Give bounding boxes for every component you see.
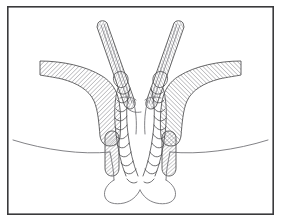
illustration-figure: Surgical cross-section illustration Line… xyxy=(0,0,281,222)
left-lower-stub xyxy=(105,131,119,176)
illustration-border xyxy=(8,7,273,214)
right-lower-stub xyxy=(162,131,176,176)
illustration-canvas xyxy=(0,0,281,222)
